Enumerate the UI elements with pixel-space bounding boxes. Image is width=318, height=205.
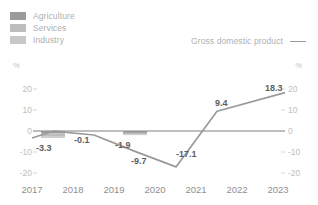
point-label-2017: -3.3 — [36, 143, 52, 153]
point-label-2022: 9.4 — [215, 98, 228, 108]
bar-agriculture-2019 — [123, 131, 147, 133]
point-label-2021: -17.1 — [176, 149, 197, 159]
point-label-2018: -0.1 — [74, 135, 90, 145]
bar-industry-2019 — [123, 134, 147, 135]
gdp-growth-chart: Agriculture Services Industry Gross dome… — [0, 0, 318, 205]
point-label-2023: 18.3 — [265, 83, 283, 93]
plot-area — [0, 0, 318, 205]
bar-industry-2017 — [41, 136, 65, 138]
point-label-2020: -9.7 — [131, 156, 147, 166]
gdp-line-series — [32, 93, 285, 167]
bar-group-2019 — [123, 131, 147, 135]
point-label-2019: -1.9 — [115, 140, 131, 150]
bar-services-2019 — [123, 133, 147, 134]
